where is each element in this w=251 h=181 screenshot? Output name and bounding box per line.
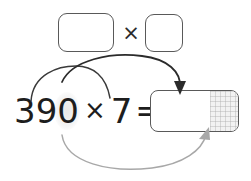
factor-box-1[interactable] xyxy=(58,13,114,52)
equation-text: 390 × 7 = xyxy=(14,91,162,131)
answer-box-shaded-grid xyxy=(210,91,238,131)
equation-multiplicand: 390 xyxy=(14,91,79,131)
arrow-zero-to-answer-box-path xyxy=(62,135,206,169)
factor-box-2[interactable] xyxy=(145,14,183,52)
equation-operator: × xyxy=(79,90,111,130)
equation-multiplier: 7 xyxy=(111,91,133,131)
worksheet-canvas: × 390 × 7 = xyxy=(0,0,251,181)
answer-box[interactable] xyxy=(150,90,239,132)
arrow-7-to-answer-box-path xyxy=(62,55,180,87)
multiplication-sign-top: × xyxy=(119,20,143,46)
